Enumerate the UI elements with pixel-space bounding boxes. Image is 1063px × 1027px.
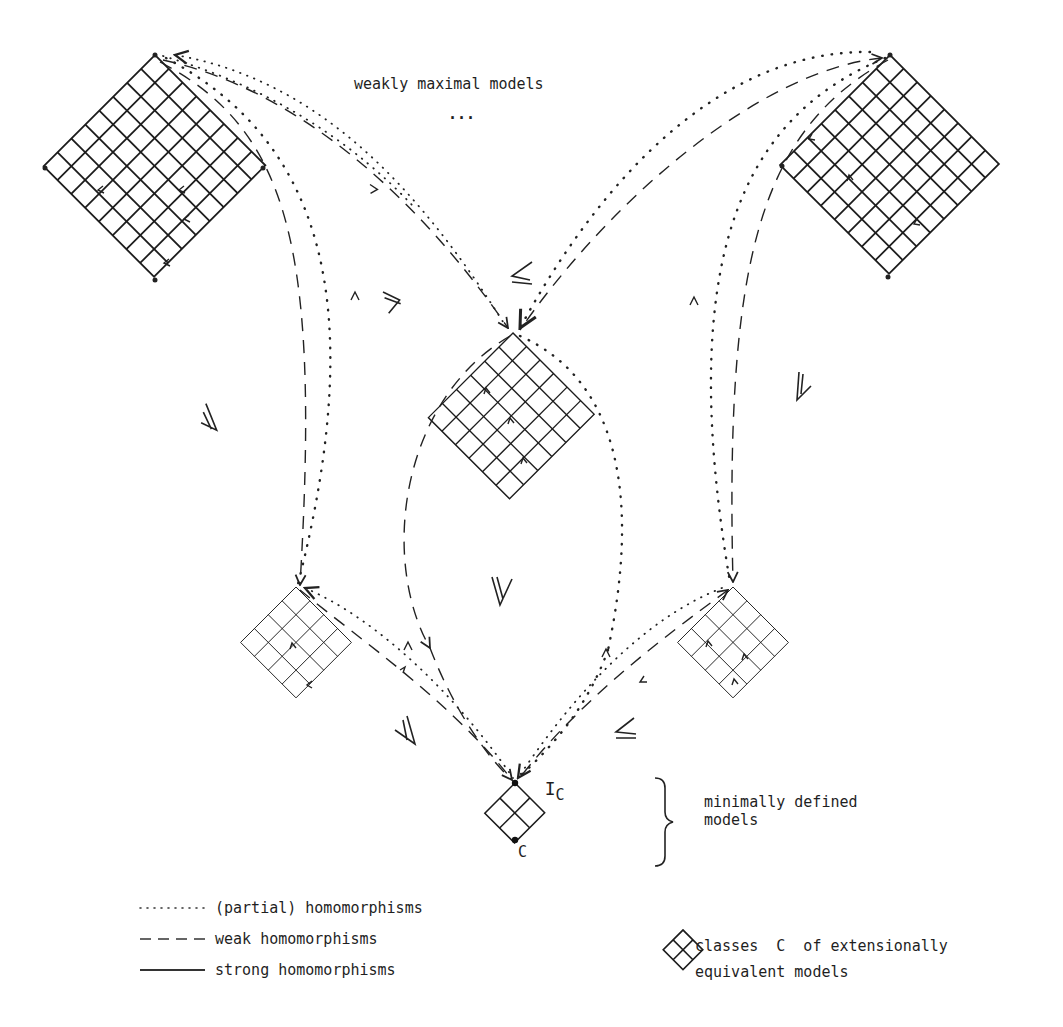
legend-partial-label: (partial) homomorphisms	[215, 899, 423, 917]
point-I-C-label: IC	[523, 762, 565, 804]
brace	[655, 778, 673, 866]
legend-classes-label-line1: classes C of extensionally	[695, 937, 948, 955]
geq-symbol-4	[492, 577, 512, 605]
geq-symbol-3	[797, 372, 811, 400]
weakly-maximal-label: weakly maximal models	[354, 75, 544, 93]
model-class-lower-left	[241, 587, 352, 698]
I-label: I	[545, 778, 556, 799]
minimal-models-label-line2: models	[704, 811, 758, 829]
model-class-center	[428, 333, 594, 499]
legend-strong-label: strong homomorphisms	[215, 961, 396, 979]
leq-symbol-2	[616, 718, 636, 738]
relation-symbols	[198, 262, 811, 744]
legend-weak-label: weak homomorphisms	[215, 930, 378, 948]
point-I-C	[512, 780, 518, 786]
point-C-label: C	[518, 843, 527, 861]
geq-symbol-2	[198, 403, 217, 433]
minimal-models-label-line1: minimally defined	[704, 793, 858, 811]
legend-lines	[140, 908, 205, 970]
leq-symbol-1	[512, 262, 532, 284]
geq-symbol-1	[383, 288, 402, 313]
I-subscript: C	[556, 786, 565, 804]
legend-classes-label-line2: equivalent models	[695, 963, 849, 981]
model-class-top-left	[44, 55, 266, 277]
ellipsis-label: ...	[448, 105, 475, 123]
geq-symbol-5	[395, 716, 415, 744]
model-class-top-right	[780, 55, 999, 274]
diagram-canvas	[0, 0, 1063, 1027]
